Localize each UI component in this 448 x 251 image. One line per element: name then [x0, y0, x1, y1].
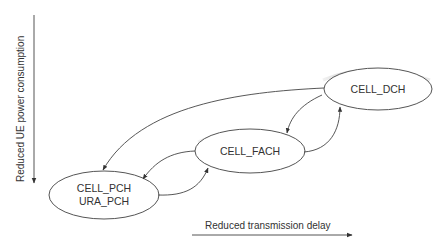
state-label: CELL_FACH: [220, 145, 280, 157]
transition-dch-to-fach: [287, 95, 322, 133]
vertical-axis: Reduced UE power consumption: [15, 15, 34, 183]
rrc-state-diagram: Reduced UE power consumption Reduced tra…: [0, 0, 448, 251]
horizontal-axis-label: Reduced transmission delay: [205, 220, 331, 231]
state-label-line2: URA_PCH: [79, 195, 129, 207]
state-label-line1: CELL_PCH: [77, 182, 131, 194]
transition-fach-to-pch: [143, 151, 195, 179]
state-label: CELL_DCH: [351, 83, 406, 95]
state-cell-pch-ura-pch: CELL_PCH URA_PCH: [49, 171, 159, 219]
state-cell-fach: CELL_FACH: [195, 129, 305, 173]
state-cell-dch: CELL_DCH: [323, 68, 432, 110]
transition-fach-to-dch: [304, 107, 340, 152]
transition-pch-to-fach: [158, 168, 208, 195]
vertical-axis-label: Reduced UE power consumption: [15, 36, 26, 182]
horizontal-axis: Reduced transmission delay: [192, 220, 352, 235]
